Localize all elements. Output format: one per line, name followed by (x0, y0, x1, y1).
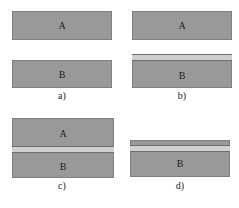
block-b: B (13, 155, 113, 177)
film-layer (12, 146, 114, 153)
block-a-label: A (59, 128, 66, 139)
block-a-label: A (178, 20, 185, 31)
block-a: A (132, 11, 232, 40)
film-layer (130, 145, 230, 152)
block-b-label: B (59, 69, 66, 80)
block-b-label: B (60, 161, 67, 172)
block-b: B (12, 60, 112, 88)
caption-b: b) (167, 90, 197, 101)
block-a: A (12, 11, 112, 40)
caption-d: d) (165, 180, 195, 191)
caption-c: c) (47, 180, 77, 191)
block-a-label: A (58, 20, 65, 31)
film-layer (132, 54, 232, 61)
caption-a: a) (47, 90, 77, 101)
block-b-label: B (179, 70, 186, 81)
block-b-label: B (177, 158, 184, 169)
block-a: A (13, 119, 113, 147)
